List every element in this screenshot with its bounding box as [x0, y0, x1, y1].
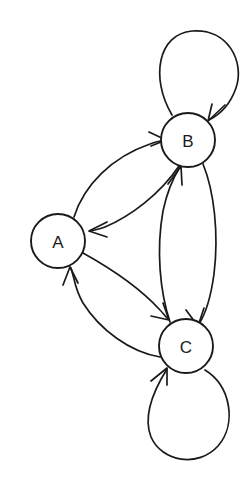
edge-c-to-a-path — [71, 268, 160, 357]
node-a[interactable]: A — [31, 214, 85, 268]
edge-a-to-c[interactable] — [83, 253, 169, 320]
node-b[interactable]: B — [161, 113, 215, 167]
edge-c-to-b-path — [159, 167, 180, 322]
edge-b-to-b-arrowhead — [208, 104, 225, 121]
edge-c-to-b[interactable] — [159, 166, 182, 322]
edge-c-to-a-arrowhead — [63, 267, 78, 285]
node-a-label: A — [52, 233, 64, 252]
edge-c-to-c-path — [148, 369, 229, 460]
edge-a-to-b-path — [74, 140, 165, 217]
edge-c-to-b-arrowhead — [168, 166, 182, 185]
edge-b-to-b[interactable] — [160, 31, 239, 121]
node-c[interactable]: C — [159, 319, 213, 373]
graph-canvas: A B C — [0, 0, 248, 483]
edge-b-to-c-path — [199, 164, 216, 324]
node-b-label: B — [182, 132, 193, 151]
edge-b-to-c[interactable] — [186, 164, 216, 326]
edge-a-to-b[interactable] — [74, 132, 166, 217]
node-c-label: C — [180, 338, 192, 357]
edge-a-to-c-path — [83, 253, 168, 319]
edge-b-to-b-path — [160, 31, 239, 120]
edge-c-to-c[interactable] — [148, 368, 229, 460]
edge-c-to-a[interactable] — [63, 267, 160, 357]
